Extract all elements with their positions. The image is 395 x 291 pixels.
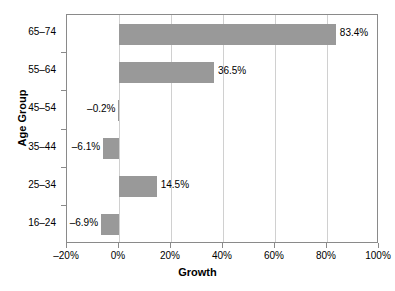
y-axis-tick xyxy=(61,129,66,130)
gridline xyxy=(327,15,328,242)
bar-value-label: 83.4% xyxy=(340,23,368,42)
x-axis-tick xyxy=(378,243,379,248)
x-axis-tick xyxy=(170,243,171,248)
gridline xyxy=(275,15,276,242)
gridline xyxy=(119,15,120,242)
y-axis-category-label: 35–44 xyxy=(0,141,56,152)
gridline xyxy=(223,15,224,242)
bar xyxy=(119,24,336,45)
x-axis-tick xyxy=(118,243,119,248)
y-axis-tick xyxy=(61,167,66,168)
y-axis-category-label: 25–34 xyxy=(0,179,56,190)
x-axis-tick xyxy=(274,243,275,248)
x-axis-tick xyxy=(222,243,223,248)
x-axis-title: Growth xyxy=(0,266,395,278)
growth-by-age-group-bar-chart: Age Group Growth –20%0%20%40%60%80%100%–… xyxy=(0,0,395,291)
gridline xyxy=(171,15,172,242)
bar-value-label: 14.5% xyxy=(161,175,189,194)
x-axis-tick xyxy=(66,243,67,248)
x-axis-tick-label: 0% xyxy=(88,250,148,261)
x-axis-tick xyxy=(326,243,327,248)
bar-value-label: 36.5% xyxy=(218,61,246,80)
x-axis-tick-label: 40% xyxy=(192,250,252,261)
x-axis-tick-label: 20% xyxy=(140,250,200,261)
y-axis-category-label: 45–54 xyxy=(0,102,56,113)
y-axis-tick xyxy=(61,205,66,206)
x-axis-tick-label: 100% xyxy=(348,250,395,261)
y-axis-category-label: 55–64 xyxy=(0,64,56,75)
bar xyxy=(101,214,119,235)
bar xyxy=(119,176,157,197)
y-axis-tick xyxy=(61,52,66,53)
x-axis-tick-label: 80% xyxy=(296,250,356,261)
bar xyxy=(119,62,214,83)
x-axis-tick-label: 60% xyxy=(244,250,304,261)
x-axis-tick-label: –20% xyxy=(36,250,96,261)
bar xyxy=(103,138,119,159)
y-axis-tick xyxy=(61,90,66,91)
y-axis-category-label: 16–24 xyxy=(0,217,56,228)
bar xyxy=(118,100,119,121)
y-axis-category-label: 65–74 xyxy=(0,26,56,37)
plot-area xyxy=(66,14,378,243)
